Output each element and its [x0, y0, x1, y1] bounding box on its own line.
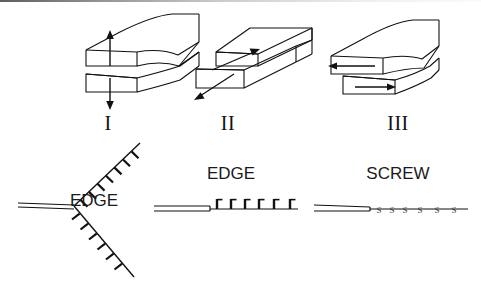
svg-text:S: S	[389, 205, 394, 215]
arrow-down-icon	[106, 78, 114, 110]
perpendicular-tick-group	[217, 199, 296, 209]
dislocation-v-diagram	[8, 135, 158, 285]
dislocation-screw-label: SCREW	[348, 165, 448, 182]
perpendicular-tick-group-lower	[72, 214, 122, 270]
arrow-right-icon	[355, 83, 396, 90]
fracture-mode-3-diagram	[303, 12, 441, 107]
fracture-mode-2-diagram	[186, 12, 316, 107]
svg-text:S: S	[402, 205, 407, 215]
fracture-mode-2-label: II	[198, 113, 258, 133]
dislocation-edge-label: EDGE	[186, 165, 276, 182]
arrow-left-icon	[328, 62, 375, 69]
dislocation-edge-diagram	[150, 190, 310, 230]
page-top-rule	[0, 0, 481, 2]
figure-canvas: I	[0, 0, 481, 288]
arrow-diagonal-down-icon	[194, 74, 234, 100]
fracture-mode-1-diagram	[60, 8, 200, 113]
svg-text:S: S	[451, 205, 456, 215]
dislocation-screw-diagram: S S S S S S	[310, 190, 475, 230]
dislocation-v-label: EDGE	[70, 192, 140, 209]
fracture-mode-1-label: I	[78, 113, 138, 133]
fracture-mode-3-label: III	[368, 113, 428, 133]
svg-text:S: S	[417, 205, 422, 215]
svg-text:S: S	[434, 205, 439, 215]
svg-text:S: S	[376, 205, 381, 215]
